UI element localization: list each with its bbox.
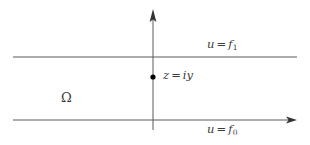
lower-boundary-label: u=f0 xyxy=(207,124,238,136)
figure-canvas xyxy=(0,0,310,145)
upper-boundary-operator: = xyxy=(214,37,228,51)
point-value: iy xyxy=(183,68,193,82)
complex-strip-domain-figure: u=f1 z=iy Ω u=f0 xyxy=(0,0,310,145)
domain-symbol-label: Ω xyxy=(61,91,72,104)
lower-boundary-operator: = xyxy=(214,122,228,136)
point-operator: = xyxy=(169,68,183,82)
upper-boundary-subscript: 1 xyxy=(232,43,237,52)
point-label: z=iy xyxy=(163,70,193,82)
upper-boundary-label: u=f1 xyxy=(207,39,238,51)
lower-boundary-subscript: 0 xyxy=(232,128,237,137)
point-marker-z xyxy=(150,74,155,79)
